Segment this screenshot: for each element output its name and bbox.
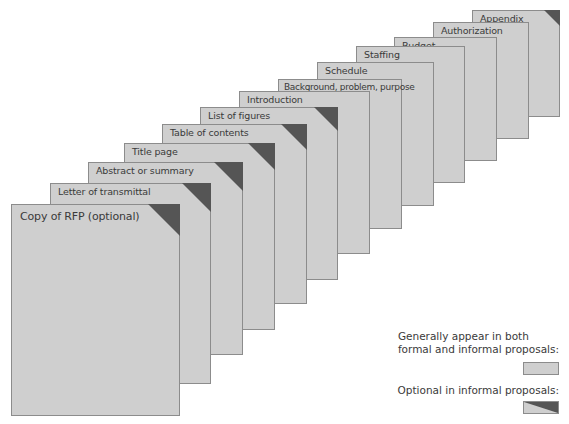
page-label: List of figures: [208, 110, 270, 121]
page-copy-of-rfp: Copy of RFP (optional): [11, 204, 180, 416]
optional-corner-icon: [148, 204, 180, 236]
page-label: Title page: [132, 146, 178, 157]
optional-corner-icon: [281, 124, 307, 150]
legend-swatch-both: [523, 362, 559, 375]
page-label: Staffing: [364, 49, 400, 60]
optional-corner-icon: [524, 402, 558, 413]
proposal-parts-diagram: Appendix Authorization Budget Staffing S…: [0, 0, 569, 424]
page-label: Schedule: [325, 65, 367, 76]
optional-corner-icon: [544, 10, 560, 26]
optional-corner-icon: [214, 162, 243, 191]
page-label: Authorization: [441, 25, 503, 36]
optional-corner-icon: [314, 107, 338, 131]
page-label: Introduction: [247, 94, 303, 105]
page-label: Abstract or summary: [96, 165, 194, 176]
legend-both-line2: formal and informal proposals:: [398, 343, 559, 356]
legend-swatch-optional: [523, 401, 559, 414]
legend-both-line1: Generally appear in both: [398, 330, 559, 343]
legend-both-label: Generally appear in both formal and info…: [398, 330, 559, 356]
page-label: Letter of transmittal: [58, 186, 150, 197]
page-label: Copy of RFP (optional): [20, 210, 139, 223]
legend-optional-label: Optional in informal proposals:: [398, 384, 559, 397]
optional-corner-icon: [248, 143, 275, 170]
optional-corner-icon: [182, 183, 211, 212]
page-label: Table of contents: [170, 127, 249, 138]
